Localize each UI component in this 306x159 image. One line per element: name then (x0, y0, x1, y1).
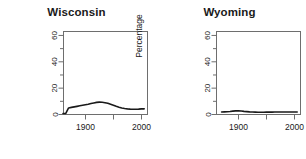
x-tick-label: 2000 (132, 122, 151, 132)
y-tick-label: 20 (204, 83, 213, 92)
data-series-line (63, 102, 144, 113)
panel-wyoming: Wyoming Percentage 020406019002000 (153, 0, 306, 159)
plot-area-wyoming: 020406019002000 (153, 0, 306, 159)
y-tick-label: 0 (204, 112, 213, 117)
y-tick-label: 60 (204, 30, 213, 39)
x-tick-label: 2000 (285, 122, 304, 132)
figure-root: Wisconsin Percentage 020406019002000 Wyo… (0, 0, 306, 159)
y-tick-label: 0 (51, 112, 60, 117)
y-tick-label: 20 (51, 83, 60, 92)
y-tick-label: 40 (204, 57, 213, 66)
plot-area-wisconsin: 020406019002000 (0, 0, 153, 159)
x-tick-label: 1900 (76, 122, 95, 132)
x-tick-label: 1900 (229, 122, 248, 132)
panel-wisconsin: Wisconsin Percentage 020406019002000 (0, 0, 153, 159)
plot-box (217, 32, 301, 115)
data-series-line (222, 111, 298, 113)
y-tick-label: 60 (51, 30, 60, 39)
y-axis-label-wyoming: Percentage (134, 0, 146, 78)
y-tick-label: 40 (51, 57, 60, 66)
